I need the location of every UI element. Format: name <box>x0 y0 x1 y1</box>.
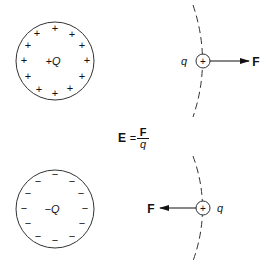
sphere-label-negative: −Q <box>45 203 60 215</box>
electric-field-diagram: + + + + + + + + + + + + +Q + q F E = F q <box>0 0 266 267</box>
force-label-bottom: F <box>147 202 154 216</box>
force-label-top: F <box>252 55 259 69</box>
svg-text:+: + <box>79 39 85 51</box>
svg-text:−: − <box>35 230 41 242</box>
positive-sphere: + + + + + + + + + + + + +Q <box>16 22 94 100</box>
svg-text:+: + <box>34 27 40 39</box>
test-charge-label-top: q <box>181 55 188 67</box>
sphere-label-positive: +Q <box>46 55 61 67</box>
svg-text:−: − <box>25 217 31 229</box>
svg-text:−: − <box>69 230 75 242</box>
svg-text:−: − <box>21 202 27 214</box>
svg-text:E: E <box>118 131 126 145</box>
svg-text:−: − <box>69 175 75 187</box>
test-charge-bottom: + <box>196 201 210 215</box>
svg-text:+: + <box>25 39 31 51</box>
svg-text:+: + <box>79 70 85 82</box>
svg-text:F: F <box>140 126 147 138</box>
svg-text:−: − <box>52 168 58 180</box>
svg-text:−: − <box>52 234 58 246</box>
svg-text:+: + <box>200 56 206 67</box>
svg-text:+: + <box>52 87 58 99</box>
svg-text:+: + <box>200 203 206 214</box>
svg-text:−: − <box>78 187 84 199</box>
svg-text:−: − <box>35 175 41 187</box>
svg-text:+: + <box>84 54 90 66</box>
test-charge-top: + <box>196 54 210 68</box>
test-charge-label-bottom: q <box>217 202 224 214</box>
svg-text:+: + <box>36 83 42 95</box>
svg-text:+: + <box>69 28 75 40</box>
svg-text:+: + <box>25 70 31 82</box>
svg-text:−: − <box>25 187 31 199</box>
negative-sphere: − − − − − − − − − − − − −Q <box>16 168 94 248</box>
svg-text:−: − <box>79 217 85 229</box>
svg-text:=: = <box>130 132 136 144</box>
svg-text:+: + <box>52 22 58 34</box>
svg-text:+: + <box>67 82 73 94</box>
svg-text:−: − <box>82 202 88 214</box>
field-equation: E = F q <box>118 126 149 150</box>
svg-text:+: + <box>21 54 27 66</box>
svg-text:q: q <box>140 138 147 150</box>
